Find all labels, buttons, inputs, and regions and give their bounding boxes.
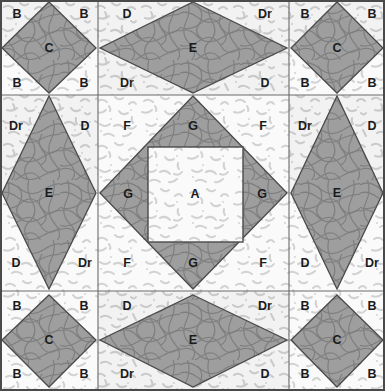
- patch-A-center-square: [148, 147, 243, 242]
- quilt-block-canvas: [0, 0, 385, 391]
- quilt-block-diagram: B B C B B D Dr E Dr D B B C B B Dr D E D…: [0, 0, 385, 391]
